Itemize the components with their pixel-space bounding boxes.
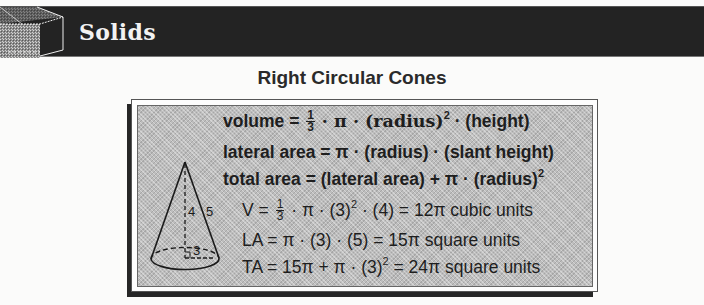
volume-formula-rhs: · π · (radius) — [322, 111, 444, 131]
page: Solids Right Circular Cones 4 5 3 volume… — [0, 0, 704, 305]
total-area-example: TA = 15π + π · (3)2 = 24π square units — [242, 256, 540, 278]
lateral-area-formula: lateral area = π · (radius) · (slant hei… — [223, 141, 554, 163]
volume-formula: volume = 1 3 · π · (radius)2 · (height) — [223, 110, 529, 134]
fraction-one-third: 1 3 — [276, 199, 285, 222]
section-title: Right Circular Cones — [0, 67, 704, 89]
chapter-title: Solids — [79, 20, 156, 44]
fraction-one-third: 1 3 — [306, 110, 315, 133]
height-label: 4 — [188, 204, 195, 219]
radius-label: 3 — [193, 243, 200, 258]
total-area-formula: total area = (lateral area) + π · (radiu… — [223, 168, 544, 190]
volume-example: V = 1 3 · π · (3)2 · (4) = 12π cubic uni… — [242, 199, 533, 223]
lateral-area-example: LA = π · (3) · (5) = 15π square units — [242, 229, 520, 251]
cube-icon — [0, 0, 72, 62]
volume-formula-lhs: volume = — [223, 111, 299, 131]
slant-height-label: 5 — [206, 204, 213, 219]
